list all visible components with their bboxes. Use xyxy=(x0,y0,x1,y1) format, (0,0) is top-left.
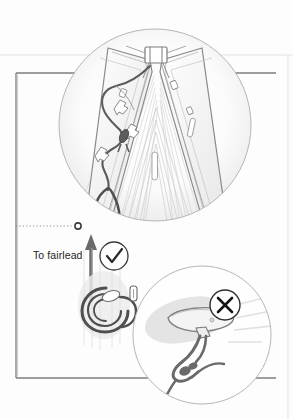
correct-marker-icon xyxy=(100,242,128,270)
incorrect-marker-icon xyxy=(210,290,240,320)
to-fairlead-label: To fairlead xyxy=(33,250,83,261)
callout-wrong-detail xyxy=(133,266,276,404)
illustration-svg xyxy=(0,0,293,419)
figure-canvas: To fairlead xyxy=(0,0,293,419)
correct-method-vignette xyxy=(78,242,137,350)
callout-main-detail xyxy=(59,29,251,233)
leader-line xyxy=(16,223,81,229)
